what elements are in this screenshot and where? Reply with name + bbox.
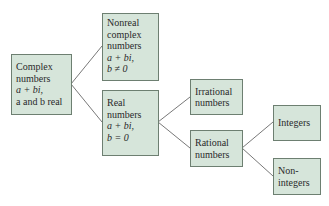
node-formula: a + bi, (107, 120, 154, 132)
node-label: numbers (195, 149, 238, 161)
edge-complex-real (71, 84, 102, 122)
node-nonreal-complex-numbers: Nonreal complex numbers a + bi, b ≠ 0 (102, 13, 159, 81)
edge-real-rational (158, 122, 190, 148)
node-label: Irrational (195, 86, 238, 98)
node-real-numbers: Real numbers a + bi, b = 0 (102, 90, 159, 156)
node-label: numbers (107, 40, 154, 52)
node-label: Nonreal (107, 17, 154, 29)
edge-real-irrational (158, 97, 190, 122)
node-rational-numbers: Rational numbers (190, 130, 243, 167)
node-irrational-numbers: Irrational numbers (190, 79, 243, 115)
node-label: complex (107, 29, 154, 41)
node-label: Integers (278, 117, 316, 129)
node-condition: b ≠ 0 (107, 63, 154, 75)
node-integers: Integers (273, 105, 321, 141)
node-condition: b = 0 (107, 132, 154, 144)
node-label: numbers (16, 73, 67, 85)
node-non-integers: Non- integers (273, 158, 321, 195)
edge-rational-integers (242, 122, 273, 148)
node-condition: a and b real (16, 96, 67, 108)
node-label: integers (278, 177, 316, 189)
node-label: numbers (195, 97, 238, 109)
node-label: Non- (278, 165, 316, 177)
node-label: Complex (16, 61, 67, 73)
node-formula: a + bi, (107, 52, 154, 64)
node-label: Rational (195, 137, 238, 149)
node-complex-numbers: Complex numbers a + bi, a and b real (11, 54, 72, 115)
edge-rational-nonintegers (242, 148, 273, 176)
edge-complex-nonreal (71, 46, 102, 84)
node-formula: a + bi, (16, 84, 67, 96)
node-label: numbers (107, 109, 154, 121)
node-label: Real (107, 97, 154, 109)
